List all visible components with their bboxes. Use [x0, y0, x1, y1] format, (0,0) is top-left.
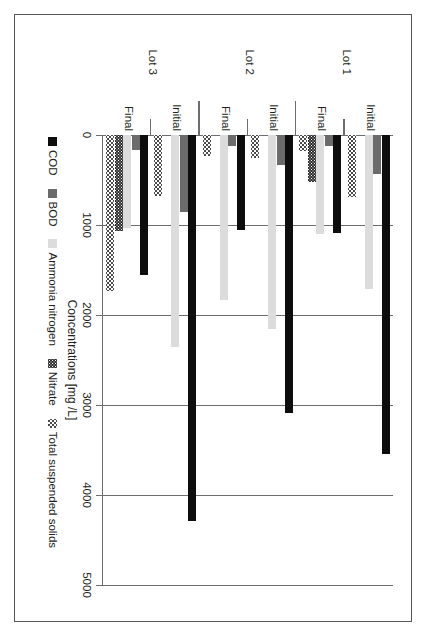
- legend-label: COD: [47, 150, 59, 176]
- bar-tss: [106, 135, 114, 291]
- chart-legend: CODBODAmmonia nitrogenNitrateTotal suspe…: [47, 137, 59, 548]
- value-tick-label: 3000: [81, 392, 93, 418]
- bar-cod: [189, 135, 197, 521]
- value-axis-line: [102, 135, 103, 585]
- category-label: Initial: [172, 75, 184, 131]
- category-separator: [150, 119, 151, 135]
- axis-tick: [96, 315, 103, 316]
- bar-amm: [268, 135, 276, 329]
- axis-tick: [96, 225, 103, 226]
- bar-cod: [237, 135, 245, 230]
- bar-tss: [203, 135, 211, 156]
- value-axis-title: Concentrations [mg /L]: [65, 135, 79, 585]
- bar-bod: [180, 135, 188, 212]
- legend-label: Ammonia nitrogen: [47, 252, 59, 345]
- legend-label: BOD: [47, 202, 59, 227]
- category-label: Final: [220, 75, 232, 131]
- group-label: Lot 2: [244, 23, 256, 75]
- bar-bod: [373, 135, 381, 174]
- bar-nit: [308, 135, 316, 182]
- category-separator: [295, 101, 296, 135]
- category-label: Final: [123, 75, 135, 131]
- category-label: Final: [317, 75, 329, 131]
- group-label: Lot 1: [341, 23, 353, 75]
- legend-label: Nitrate: [47, 372, 59, 406]
- axis-tick: [96, 585, 103, 586]
- legend-swatch-tss-icon: [49, 419, 58, 428]
- value-tick-label: 1000: [81, 212, 93, 238]
- legend-label: Total suspended solids: [47, 432, 59, 548]
- bar-tss: [300, 135, 308, 151]
- plot-area: 010002000300040005000 InitialFinalInitia…: [103, 135, 393, 585]
- value-tick-label: 5000: [81, 572, 93, 598]
- bar-tss: [348, 135, 356, 197]
- legend-item[interactable]: BOD: [47, 189, 59, 227]
- legend-swatch-bod-icon: [49, 189, 58, 198]
- bar-tss: [155, 135, 163, 196]
- category-label: Initial: [365, 75, 377, 131]
- legend-swatch-nit-icon: [49, 359, 58, 368]
- axis-tick: [96, 495, 103, 496]
- legend-item[interactable]: Total suspended solids: [47, 419, 59, 548]
- legend-swatch-cod-icon: [49, 137, 58, 146]
- bar-amm: [220, 135, 228, 300]
- bar-cod: [382, 135, 390, 454]
- category-separator: [198, 101, 199, 135]
- bar-cod: [140, 135, 148, 275]
- value-tick-label: 2000: [81, 302, 93, 328]
- bar-bod: [277, 135, 285, 165]
- gridline: [103, 495, 393, 496]
- gridline: [103, 585, 393, 586]
- value-tick-label: 4000: [81, 482, 93, 508]
- axis-tick: [96, 135, 103, 136]
- chart-frame: 010002000300040005000 InitialFinalInitia…: [14, 14, 412, 622]
- bar-nit: [115, 135, 123, 231]
- gridline: [103, 315, 393, 316]
- bar-bod: [132, 135, 140, 150]
- category-label: Initial: [268, 75, 280, 131]
- axis-tick: [96, 405, 103, 406]
- legend-item[interactable]: Ammonia nitrogen: [47, 239, 59, 345]
- bar-tss: [251, 135, 259, 158]
- group-label: Lot 3: [147, 23, 159, 75]
- bar-amm: [123, 135, 131, 228]
- rotated-chart-plate: 010002000300040005000 InitialFinalInitia…: [0, 0, 422, 640]
- legend-item[interactable]: Nitrate: [47, 359, 59, 406]
- gridline: [103, 405, 393, 406]
- bar-cod: [285, 135, 293, 413]
- bar-cod: [334, 135, 342, 233]
- legend-swatch-amm-icon: [49, 239, 58, 248]
- legend-item[interactable]: COD: [47, 137, 59, 176]
- value-tick-label: 0: [81, 132, 93, 138]
- bar-bod: [228, 135, 236, 146]
- bar-bod: [325, 135, 333, 146]
- category-separator: [247, 119, 248, 135]
- category-separator: [343, 119, 344, 135]
- bar-amm: [317, 135, 325, 234]
- bar-amm: [172, 135, 180, 347]
- bar-amm: [365, 135, 373, 289]
